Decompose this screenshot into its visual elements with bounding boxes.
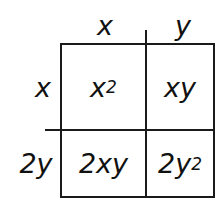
cell-term: 2y [158,148,191,179]
cell-term: x [90,72,106,103]
cell-2y-x: 2xy [62,131,145,196]
column-header-2: y [168,12,198,39]
cell-term: 2xy [79,148,128,179]
column-header-1: x [90,12,120,39]
grid-right-border [213,43,215,198]
cell-x-y: xy [147,45,213,129]
cell-2y-y: 2y2 [147,131,213,196]
row-header-1: x [28,74,58,101]
grid-bottom-border [60,196,215,198]
row-header-2: 2y [12,150,60,177]
cell-x-x: x2 [62,45,145,129]
cell-term: xy [164,72,196,103]
